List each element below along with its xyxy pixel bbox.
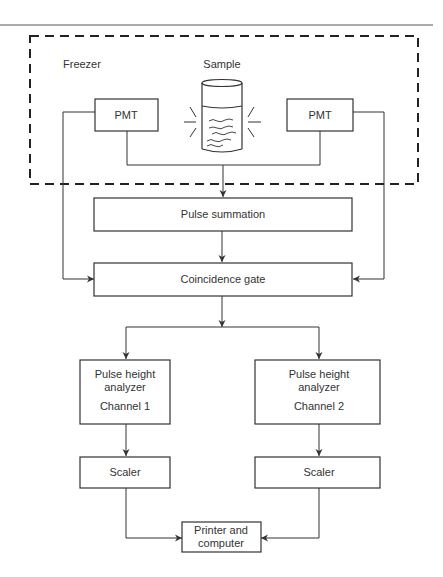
split-to-channel1-line — [126, 327, 222, 359]
pmt-right-label: PMT — [308, 109, 332, 121]
pha-channel2-line2: analyzer — [298, 381, 340, 393]
scaler-right-to-printer-line — [261, 488, 319, 538]
pmt-left-to-gate-line — [63, 112, 95, 279]
pmt-left-label: PMT — [114, 109, 138, 121]
sample-vial-icon — [202, 80, 242, 153]
scaler-right-label: Scaler — [303, 466, 335, 478]
pha-channel1-line2: analyzer — [104, 381, 146, 393]
scaler-left-label: Scaler — [109, 466, 141, 478]
scaler-left-to-printer-line — [126, 488, 182, 538]
printer-computer-line2: computer — [198, 537, 244, 549]
pulse-summation-label: Pulse summation — [181, 208, 265, 220]
block-diagram: Freezer Sample PMT PMT Pulse summation C… — [0, 0, 443, 577]
scintillation-rays-icon — [184, 107, 261, 137]
printer-computer-line1: Printer and — [194, 524, 248, 536]
pha-channel1-channel: Channel 1 — [100, 400, 150, 412]
pha-channel2-line1: Pulse height — [289, 368, 350, 380]
coincidence-gate-label: Coincidence gate — [180, 273, 265, 285]
pmt-left-to-summation-line — [127, 131, 320, 165]
split-to-channel2-line — [222, 327, 319, 359]
freezer-label: Freezer — [63, 58, 101, 70]
pmt-right-to-gate-line — [353, 112, 384, 279]
pha-channel1-line1: Pulse height — [95, 368, 156, 380]
pha-channel2-channel: Channel 2 — [294, 400, 344, 412]
sample-label: Sample — [203, 58, 240, 70]
